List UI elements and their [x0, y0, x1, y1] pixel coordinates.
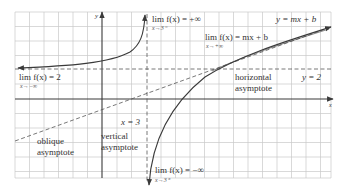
limit-subscript: x→−∞ [19, 83, 38, 89]
limit-subscript: x→3⁺ [154, 177, 171, 183]
left-branch-curve [18, 15, 145, 68]
limit-subscript: x→+∞ [205, 43, 224, 49]
label-line: vertical [101, 131, 128, 141]
limit-expression: lim f(x) = +∞ [152, 14, 201, 24]
limit-3-left: lim f(x) = +∞ x→3⁻ [151, 14, 201, 31]
horizontal-asymptote-equation: y = 2 [301, 72, 322, 82]
limit-3-right: lim f(x) = −∞ x→3⁺ [154, 165, 204, 183]
limit-expression: lim f(x) = −∞ [155, 165, 204, 175]
horizontal-asymptote-label: horizontal asymptote [235, 72, 272, 93]
asymptote-diagram: x y lim f(x) = 2 x→−∞ lim f(x) = +∞ x→3⁻… [0, 0, 346, 191]
limit-minus-infinity: lim f(x) = 2 x→−∞ [19, 72, 61, 89]
oblique-asymptote-label: oblique asymptote [37, 136, 74, 157]
label-line: asymptote [37, 147, 74, 157]
limit-subscript: x→3⁻ [151, 25, 168, 31]
label-line: oblique [37, 136, 64, 146]
limit-expression: lim f(x) = mx + b [205, 32, 268, 42]
y-axis-label: y [94, 12, 99, 20]
limit-plus-infinity: lim f(x) = mx + b x→+∞ [205, 32, 268, 49]
oblique-asymptote-equation: y = mx + b [275, 14, 317, 24]
vertical-asymptote-equation: x = 3 [120, 117, 141, 127]
right-branch-curve [149, 27, 331, 185]
label-line: asymptote [101, 142, 138, 152]
label-line: asymptote [235, 83, 272, 93]
limit-expression: lim f(x) = 2 [19, 72, 61, 82]
label-line: horizontal [235, 72, 272, 82]
x-axis-label: x [328, 102, 332, 108]
vertical-asymptote-label: vertical asymptote [101, 131, 138, 152]
